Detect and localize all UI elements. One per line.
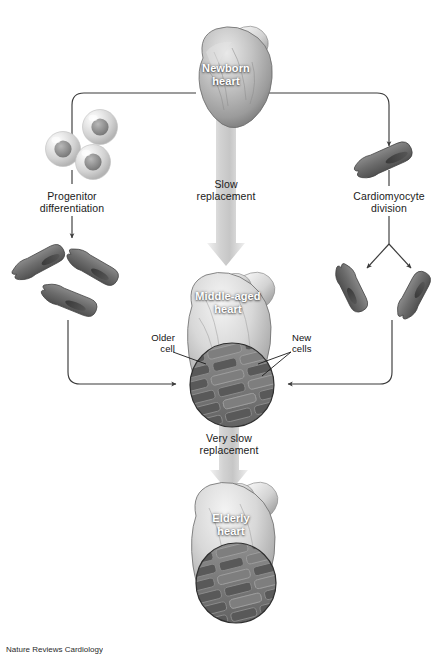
elderly-heart-label-line2: heart bbox=[186, 525, 276, 538]
figure-container: Newborn heart Progenitor differentiation… bbox=[0, 0, 448, 655]
newborn-heart-label: Newborn heart bbox=[186, 62, 266, 88]
progenitor-differentiation-label: Progenitor differentiation bbox=[22, 190, 122, 215]
slow-replacement-label-line2: replacement bbox=[176, 190, 276, 202]
cardiomyocyte-division-label: Cardiomyocyte division bbox=[331, 190, 447, 215]
middle-aged-heart-label: Middle-aged heart bbox=[178, 290, 278, 316]
daughter-cardiomyocytes-illustration bbox=[331, 261, 434, 322]
very-slow-replacement-label: Very slow replacement bbox=[179, 432, 279, 457]
elderly-heart-label: Elderly heart bbox=[186, 512, 276, 538]
parent-cardiomyocyte-illustration bbox=[351, 138, 415, 182]
newborn-heart-label-line2: heart bbox=[186, 75, 266, 88]
connector-newborn-to-cardiomyocyte bbox=[264, 93, 389, 146]
new-cells-line1: New bbox=[292, 332, 338, 343]
progenitor-derived-myocytes-illustration bbox=[9, 241, 122, 320]
connector-division-fork-right bbox=[389, 244, 411, 268]
figure-caption: Nature Reviews Cardiology bbox=[6, 645, 103, 655]
progenitor-label-line2: differentiation bbox=[22, 202, 122, 214]
new-cells-line2: cells bbox=[292, 343, 338, 354]
older-cell-line1: Older bbox=[129, 332, 175, 343]
progenitor-label-line1: Progenitor bbox=[22, 190, 122, 202]
middle-aged-heart-label-line2: heart bbox=[178, 303, 278, 316]
diagram-canvas bbox=[0, 0, 448, 655]
slow-replacement-label-line1: Slow bbox=[176, 178, 276, 190]
progenitor-cells-illustration bbox=[46, 110, 118, 180]
older-cell-annotation: Older cell bbox=[129, 332, 175, 354]
middle-aged-heart-label-line1: Middle-aged bbox=[178, 290, 278, 303]
new-cells-annotation: New cells bbox=[292, 332, 338, 354]
newborn-heart-label-line1: Newborn bbox=[186, 62, 266, 75]
elderly-heart-label-line1: Elderly bbox=[186, 512, 276, 525]
slow-replacement-label: Slow replacement bbox=[176, 178, 276, 203]
very-slow-label-line1: Very slow bbox=[179, 432, 279, 444]
older-cell-line2: cell bbox=[129, 343, 175, 354]
cardiomyocyte-label-line2: division bbox=[331, 202, 447, 214]
cardiomyocyte-label-line1: Cardiomyocyte bbox=[331, 190, 447, 202]
connector-division-fork-left bbox=[367, 244, 389, 268]
elderly-heart-illustration bbox=[179, 482, 294, 631]
very-slow-label-line2: replacement bbox=[179, 444, 279, 456]
